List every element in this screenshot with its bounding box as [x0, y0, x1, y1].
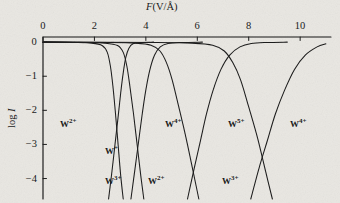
y-tick-label-3: −3: [26, 139, 37, 150]
x-axis-title: F(V/Å): [146, 2, 178, 13]
y-tick-label-2: −2: [26, 105, 37, 116]
y-axis-title: log I: [6, 108, 17, 128]
x-tick-label-8: 8: [246, 21, 251, 32]
y-tick-label-1: −1: [26, 71, 37, 82]
x-tick-label-10: 10: [295, 21, 306, 32]
figure-canvas: [0, 0, 340, 203]
curve-label-4-w4plus: W4+: [165, 118, 182, 129]
x-tick-label-0: 0: [40, 21, 45, 32]
x-tick-label-2: 2: [92, 21, 97, 32]
curve-label-0-w2plus: W2+: [60, 118, 77, 129]
x-tick-label-6: 6: [195, 21, 200, 32]
curve-label-6-w3plus: W3+: [222, 175, 239, 186]
curve-label-7-w4plus: W4+: [290, 118, 307, 129]
paper-grain: [0, 0, 340, 203]
curve-label-2-w3plus: W3+: [105, 175, 122, 186]
x-tick-label-4: 4: [143, 21, 148, 32]
curve-label-3-w2plus: W2+: [148, 175, 165, 186]
y-tick-label-4: −4: [26, 174, 37, 185]
y-tick-label-0: 0: [31, 37, 36, 48]
curve-label-1-wplus: W+: [105, 145, 118, 156]
curve-label-5-w5plus: W5+: [228, 118, 245, 129]
